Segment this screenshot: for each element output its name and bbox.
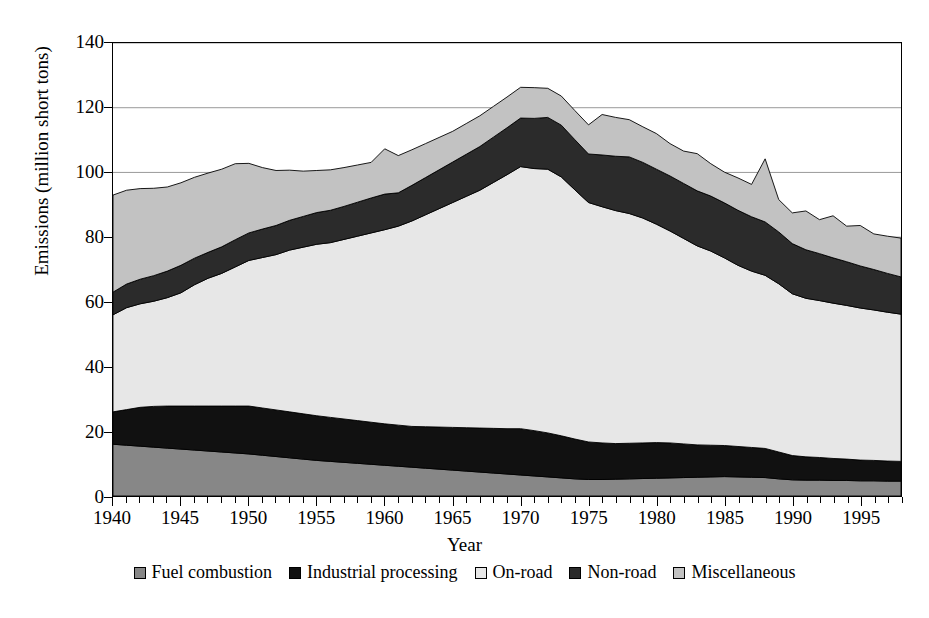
x-tick-major [112, 497, 113, 506]
x-tick-minor [766, 497, 767, 503]
x-tick-major [180, 497, 181, 506]
y-axis-tick-labels: 020406080100120140 [52, 42, 104, 497]
x-tick-minor [684, 497, 685, 503]
y-tick-label: 100 [76, 161, 105, 183]
x-tick-minor [480, 497, 481, 503]
y-axis-title: Emissions (million short tons) [31, 46, 52, 276]
legend-label: Miscellaneous [691, 562, 795, 583]
legend-swatch-icon [289, 567, 301, 579]
x-tick-minor [630, 497, 631, 503]
legend-swatch-icon [673, 567, 685, 579]
x-tick-minor [575, 497, 576, 503]
x-tick-minor [834, 497, 835, 503]
legend-label: Fuel combustion [152, 562, 273, 583]
x-tick-minor [779, 497, 780, 503]
legend-label: Industrial processing [307, 562, 457, 583]
x-tick-minor [166, 497, 167, 503]
x-tick-minor [888, 497, 889, 503]
x-tick-minor [507, 497, 508, 503]
x-tick-label: 1975 [570, 507, 608, 529]
x-tick-minor [643, 497, 644, 503]
legend-item: Fuel combustion [134, 562, 273, 583]
x-tick-minor [739, 497, 740, 503]
x-tick-major [861, 497, 862, 506]
x-tick-label: 1985 [706, 507, 744, 529]
x-tick-minor [820, 497, 821, 503]
x-tick-major [248, 497, 249, 506]
x-tick-label: 1990 [774, 507, 812, 529]
x-tick-major [589, 497, 590, 506]
x-tick-major [453, 497, 454, 506]
x-tick-minor [153, 497, 154, 503]
stacked-area-svg [113, 43, 901, 496]
x-tick-minor [289, 497, 290, 503]
x-tick-major [793, 497, 794, 506]
x-tick-minor [670, 497, 671, 503]
legend-swatch-icon [569, 567, 581, 579]
y-tick-label: 40 [85, 356, 104, 378]
x-tick-minor [807, 497, 808, 503]
x-tick-major [657, 497, 658, 506]
x-tick-minor [534, 497, 535, 503]
x-tick-minor [262, 497, 263, 503]
x-tick-minor [425, 497, 426, 503]
x-tick-label: 1980 [638, 507, 676, 529]
x-tick-minor [330, 497, 331, 503]
y-tick-label: 60 [85, 291, 104, 313]
x-tick-minor [902, 497, 903, 503]
x-tick-minor [493, 497, 494, 503]
x-tick-label: 1995 [842, 507, 880, 529]
x-tick-label: 1950 [229, 507, 267, 529]
legend-item: Miscellaneous [673, 562, 795, 583]
x-axis-title: Year [0, 534, 929, 556]
x-tick-minor [548, 497, 549, 503]
legend-item: On-road [475, 562, 553, 583]
x-tick-major [521, 497, 522, 506]
x-tick-minor [602, 497, 603, 503]
chart-page: Emissions (million short tons) 020406080… [0, 0, 929, 618]
legend-label: Non-road [587, 562, 656, 583]
x-tick-minor [371, 497, 372, 503]
x-tick-minor [439, 497, 440, 503]
y-tick-label: 20 [85, 421, 104, 443]
y-tick-label: 120 [76, 96, 105, 118]
x-tick-minor [303, 497, 304, 503]
x-tick-minor [139, 497, 140, 503]
x-tick-label: 1960 [365, 507, 403, 529]
legend-item: Non-road [569, 562, 656, 583]
y-axis-title-container: Emissions (million short tons) [31, 0, 53, 371]
x-tick-minor [357, 497, 358, 503]
x-tick-minor [875, 497, 876, 503]
x-tick-label: 1945 [161, 507, 199, 529]
x-tick-minor [698, 497, 699, 503]
x-tick-minor [752, 497, 753, 503]
x-tick-minor [561, 497, 562, 503]
x-tick-minor [616, 497, 617, 503]
y-tick-label: 140 [76, 31, 105, 53]
x-tick-label: 1970 [502, 507, 540, 529]
x-tick-minor [126, 497, 127, 503]
x-tick-minor [221, 497, 222, 503]
x-axis-tick-marks [112, 497, 903, 506]
x-tick-major [316, 497, 317, 506]
legend-label: On-road [493, 562, 553, 583]
x-tick-minor [344, 497, 345, 503]
x-tick-minor [711, 497, 712, 503]
x-tick-minor [398, 497, 399, 503]
x-tick-minor [194, 497, 195, 503]
x-tick-major [725, 497, 726, 506]
x-tick-label: 1940 [93, 507, 131, 529]
x-tick-label: 1955 [297, 507, 335, 529]
x-tick-minor [207, 497, 208, 503]
y-tick-label: 80 [85, 226, 104, 248]
x-tick-minor [466, 497, 467, 503]
y-tick-label: 0 [95, 486, 105, 508]
legend-item: Industrial processing [289, 562, 457, 583]
x-tick-major [384, 497, 385, 506]
x-tick-label: 1965 [434, 507, 472, 529]
plot-area [112, 42, 902, 497]
x-tick-minor [235, 497, 236, 503]
chart-legend: Fuel combustionIndustrial processingOn-r… [0, 562, 929, 583]
legend-swatch-icon [134, 567, 146, 579]
x-tick-minor [848, 497, 849, 503]
